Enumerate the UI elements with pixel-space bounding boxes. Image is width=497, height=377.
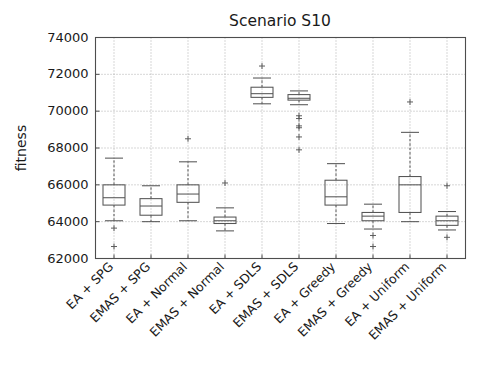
y-tick-label: 62000 [47, 251, 88, 266]
boxplot-figure: Scenario S10 fitness 6200064000660006800… [0, 0, 497, 377]
y-tick-label: 72000 [47, 66, 88, 81]
chart-container: Scenario S10 fitness 6200064000660006800… [0, 0, 497, 377]
y-tick-label: 74000 [47, 30, 88, 45]
y-tick-label: 70000 [47, 103, 88, 118]
y-tick-label: 68000 [47, 140, 88, 155]
y-axis-label: fitness [13, 125, 29, 171]
page-title: Scenario S10 [229, 12, 331, 30]
y-tick-label: 66000 [47, 177, 88, 192]
y-tick-label: 64000 [47, 214, 88, 229]
